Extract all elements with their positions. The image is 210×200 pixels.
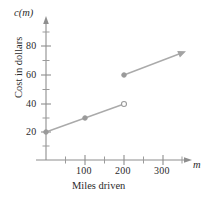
y-axis-title: Cost in dollars (14, 27, 25, 107)
cost-vs-miles-chart: c(m) m Cost in dollars Miles driven 80 6… (0, 0, 210, 200)
data-point-closed-0-20 (44, 130, 49, 135)
x-axis-variable-label: m (193, 160, 201, 171)
data-point-closed-100-30 (83, 116, 88, 121)
x-tick-label-200: 200 (115, 166, 131, 176)
y-axis-group (41, 16, 51, 160)
y-tick-label-40: 40 (26, 99, 36, 109)
y-axis-variable-label: c(m) (14, 8, 33, 19)
x-tick-label-300: 300 (154, 166, 170, 176)
data-point-open-200-40 (122, 102, 127, 107)
y-tick-label-20: 20 (26, 127, 36, 137)
upper-segment-line (124, 54, 179, 75)
x-axis-title: Miles driven (72, 181, 125, 192)
x-axis-group (36, 155, 192, 165)
y-tick-label-80: 80 (26, 41, 36, 51)
y-axis-paren-close: ) (30, 7, 34, 18)
y-axis-var-name: m (22, 7, 30, 18)
series-segment-lower (44, 102, 127, 135)
series-segment-upper (122, 51, 186, 77)
x-axis-arrowhead (184, 157, 192, 163)
y-axis-arrowhead (43, 16, 49, 24)
y-tick-label-60: 60 (26, 70, 36, 80)
x-tick-label-100: 100 (76, 166, 92, 176)
data-point-closed-200-60 (122, 73, 127, 78)
